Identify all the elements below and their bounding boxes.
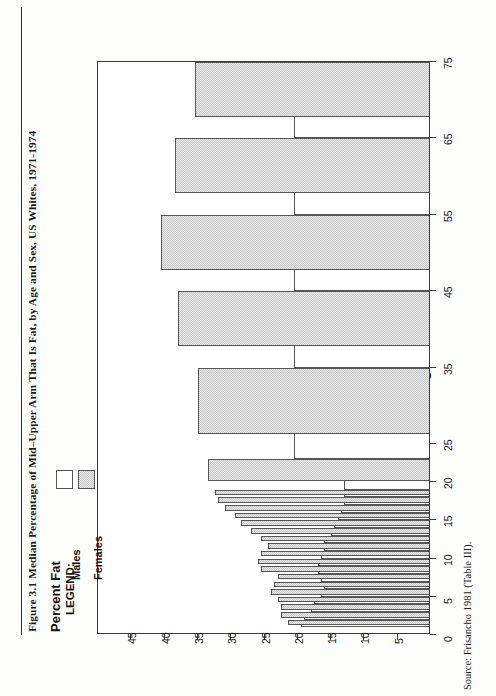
- bars-layer: [98, 62, 429, 633]
- age-axis-tick: [430, 367, 436, 368]
- bar-chart-plot-area: [97, 61, 430, 634]
- bar-female: [288, 620, 429, 626]
- age-axis-tick-label: 20: [442, 478, 454, 490]
- bar-female: [161, 215, 429, 270]
- age-axis-tick: [430, 137, 436, 138]
- shaded-box-swatch: [78, 470, 95, 489]
- age-axis-tick: [430, 596, 436, 597]
- bar-female: [281, 604, 429, 610]
- percent-axis-tick-label: 40: [160, 632, 172, 644]
- age-axis-tick: [430, 481, 436, 482]
- bar-female: [271, 589, 429, 595]
- bar-female: [261, 536, 429, 542]
- legend-label-males: Males: [70, 549, 82, 580]
- white-box-swatch: [56, 470, 73, 489]
- percent-axis-tick-label: 25: [260, 632, 272, 644]
- page-gutter-rule: [21, 7, 22, 635]
- percent-axis-tick-label: 5: [393, 638, 405, 644]
- age-axis-tick-label: 75: [442, 57, 454, 69]
- scanned-page: Figure 3.1 Median Percentage of Mid–Uppe…: [0, 0, 496, 696]
- figure-title: Figure 3.1 Median Percentage of Mid–Uppe…: [26, 131, 38, 632]
- bar-female: [281, 612, 429, 618]
- bar-female: [175, 138, 429, 193]
- age-axis-tick: [430, 61, 436, 62]
- bar-female: [261, 566, 429, 572]
- bar-female: [198, 368, 429, 434]
- figure-source-note: Source: Frisancho 1981 (Table III).: [462, 542, 473, 690]
- age-axis-tick-label: 25: [442, 439, 454, 451]
- bar-female: [274, 582, 429, 588]
- bar-female: [195, 62, 429, 117]
- bar-female: [235, 513, 429, 519]
- bar-female: [218, 497, 429, 503]
- age-axis-tick-label: 55: [442, 210, 454, 222]
- percent-axis-tick-label: 15: [326, 632, 338, 644]
- age-axis-tick-label: 45: [442, 287, 454, 299]
- age-axis-tick: [430, 214, 436, 215]
- percent-axis-tick-label: 35: [193, 632, 205, 644]
- bar-female: [278, 597, 429, 603]
- chart-legend: LEGEND: MalesFemales: [56, 470, 118, 620]
- legend-label-females: Females: [92, 536, 104, 580]
- bar-female: [208, 459, 429, 481]
- bar-female: [278, 574, 429, 580]
- age-axis-tick: [430, 443, 436, 444]
- bar-female: [251, 528, 429, 534]
- age-axis-tick: [430, 634, 436, 635]
- age-axis-tick-label: 5: [442, 598, 454, 604]
- percent-axis-tick-label: 10: [359, 632, 371, 644]
- percent-axis-tick-label: 20: [293, 632, 305, 644]
- age-axis-tick: [430, 558, 436, 559]
- bar-female: [178, 291, 429, 346]
- bar-female: [241, 520, 429, 526]
- bar-female: [268, 543, 429, 549]
- age-axis-tick-label: 65: [442, 134, 454, 146]
- percent-axis-tick-label: 45: [126, 632, 138, 644]
- age-axis-tick: [430, 290, 436, 291]
- age-axis-tick: [430, 519, 436, 520]
- age-axis-tick-label: 15: [442, 516, 454, 528]
- bar-female: [215, 490, 429, 496]
- bar-female: [261, 551, 429, 557]
- age-axis-tick-label: 35: [442, 363, 454, 375]
- age-axis-tick-label: 0: [442, 636, 454, 642]
- bar-female: [258, 559, 429, 565]
- age-axis-tick-label: 10: [442, 554, 454, 566]
- percent-axis-tick-label: 30: [226, 632, 238, 644]
- bar-female: [225, 505, 429, 511]
